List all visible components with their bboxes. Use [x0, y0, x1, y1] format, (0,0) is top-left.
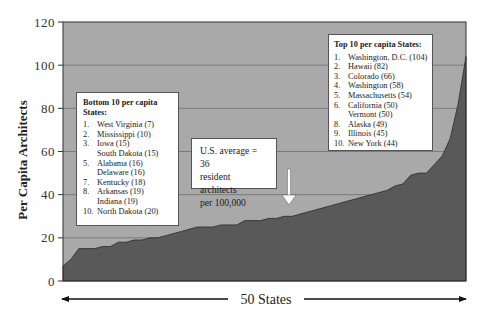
state-label: West Virginia (7) [97, 120, 154, 130]
list-item: Indiana (19) [83, 197, 172, 207]
rank-number: 8. [334, 120, 348, 130]
bottom-10-list: 1.West Virginia (7)2.Mississippi (10)3.I… [83, 120, 172, 216]
list-item: 2.Hawaii (82) [334, 62, 427, 72]
y-tick-label: 120 [34, 15, 55, 30]
rank-number: 10. [334, 139, 348, 149]
y-tick-label: 100 [34, 58, 55, 73]
list-item: 4.Washington (58) [334, 81, 427, 91]
y-tick-label: 60 [41, 144, 55, 159]
rank-number [83, 197, 97, 207]
list-item: Delaware (16) [83, 168, 172, 178]
list-item: 8.Alaska (49) [334, 120, 427, 130]
list-item: 10.North Dakota (20) [83, 207, 172, 217]
state-label: South Dakota (15) [97, 149, 158, 159]
rank-number: 6. [334, 101, 348, 111]
list-item: 7.Kentucky (18) [83, 178, 172, 188]
y-tick-label: 0 [48, 274, 55, 289]
state-label: Alabama (16) [97, 159, 143, 169]
x-axis-title: 50 States [241, 292, 292, 307]
rank-number: 9. [334, 129, 348, 139]
y-tick-label: 40 [41, 187, 55, 202]
state-label: Kentucky (18) [97, 178, 145, 188]
rank-number: 4. [334, 81, 348, 91]
state-label: Washington (58) [348, 81, 403, 91]
rank-number: 3. [334, 72, 348, 82]
list-item: 6.California (50) [334, 101, 427, 111]
state-label: Illinois (45) [348, 129, 387, 139]
rank-number: 1. [334, 53, 348, 63]
top-10-list: 1.Washington, D.C. (104)2.Hawaii (82)3.C… [334, 53, 427, 149]
list-item: 2.Mississippi (10) [83, 130, 172, 140]
state-label: Arkansas (19) [97, 187, 144, 197]
rank-number: 2. [334, 62, 348, 72]
state-label: North Dakota (20) [97, 207, 158, 217]
rank-number: 7. [83, 178, 97, 188]
list-item: 5.Alabama (16) [83, 159, 172, 169]
state-label: New York (44) [348, 139, 398, 149]
rank-number: 5. [334, 91, 348, 101]
y-tick-label: 20 [41, 230, 55, 245]
state-label: Iowa (15) [97, 139, 129, 149]
state-label: Delaware (16) [97, 168, 145, 178]
list-item: 1.Washington, D.C. (104) [334, 53, 427, 63]
state-label: Indiana (19) [97, 197, 138, 207]
y-axis-title: Per Capita Architects [15, 100, 30, 219]
rank-number: 5. [83, 159, 97, 169]
list-item: Vermont (50) [334, 110, 427, 120]
state-label: Mississippi (10) [97, 130, 151, 140]
state-label: Vermont (50) [348, 110, 392, 120]
rank-number: 3. [83, 139, 97, 149]
list-item: South Dakota (15) [83, 149, 172, 159]
rank-number [83, 168, 97, 178]
rank-number [334, 110, 348, 120]
bottom-10-annotation: Bottom 10 per capita States: 1.West Virg… [76, 92, 179, 226]
rank-number [83, 149, 97, 159]
list-item: 3.Colorado (66) [334, 72, 427, 82]
y-axis: 020406080100120 [34, 15, 63, 289]
state-label: Hawaii (82) [348, 62, 388, 72]
rank-number: 10. [83, 207, 97, 217]
bottom-10-title: Bottom 10 per capita States: [83, 98, 172, 117]
rank-number: 8. [83, 187, 97, 197]
y-tick-label: 80 [41, 101, 55, 116]
list-item: 5.Massachusetts (54) [334, 91, 427, 101]
list-item: 8.Arkansas (19) [83, 187, 172, 197]
state-label: Massachusetts (54) [348, 91, 412, 101]
top-10-title: Top 10 per capita States: [334, 40, 427, 50]
state-label: Colorado (66) [348, 72, 395, 82]
list-item: 10.New York (44) [334, 139, 427, 149]
rank-number: 1. [83, 120, 97, 130]
list-item: 3.Iowa (15) [83, 139, 172, 149]
rank-number: 2. [83, 130, 97, 140]
list-item: 9.Illinois (45) [334, 129, 427, 139]
top-10-annotation: Top 10 per capita States: 1.Washington, … [328, 34, 433, 151]
chart: 020406080100120 Per Capita Architects 50… [0, 0, 480, 324]
state-label: Washington, D.C. (104) [348, 53, 427, 63]
state-label: California (50) [348, 101, 398, 111]
us-average-annotation: U.S. average = 36 resident architects pe… [191, 138, 277, 189]
state-label: Alaska (49) [348, 120, 387, 130]
list-item: 1.West Virginia (7) [83, 120, 172, 130]
